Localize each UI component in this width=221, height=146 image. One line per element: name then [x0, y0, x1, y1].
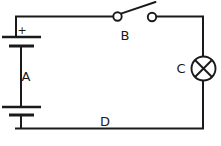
switch-left-terminal-icon[interactable] — [113, 12, 121, 20]
lamp-symbol — [192, 57, 216, 81]
component-label-c: C — [176, 61, 185, 76]
circuit-schematic: + A B C D — [0, 0, 221, 146]
battery-polarity-plus-label: + — [17, 24, 26, 37]
component-label-b: B — [121, 28, 130, 43]
component-label-d: D — [100, 114, 110, 129]
switch-right-terminal-icon[interactable] — [148, 13, 156, 21]
switch-lever-arm[interactable] — [121, 2, 156, 14]
circuit-diagram-figure: + A B C D — [0, 0, 221, 146]
switch-symbol[interactable] — [113, 2, 156, 21]
component-label-a: A — [22, 69, 31, 84]
